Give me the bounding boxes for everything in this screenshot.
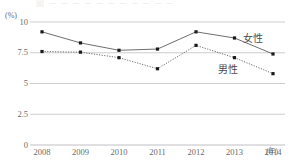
- series-label-male: 男性: [218, 64, 238, 75]
- data-point-marker: [40, 50, 43, 53]
- x-axis-tick-label: 2012: [176, 147, 216, 157]
- y-axis-tick-label: 10: [4, 18, 28, 27]
- y-axis-tick: 5: [4, 79, 28, 88]
- data-point-marker: [233, 56, 236, 59]
- y-axis-tick-label: 5: [4, 79, 28, 88]
- data-point-marker: [233, 36, 236, 39]
- data-point-marker: [79, 41, 82, 44]
- data-point-marker: [79, 51, 82, 54]
- data-point-marker: [271, 72, 274, 75]
- y-axis-tick: 10: [4, 18, 28, 27]
- line-chart-plot: [0, 0, 291, 164]
- x-axis-tick-label: 2011: [138, 147, 178, 157]
- y-axis-tick-label: 2.5: [4, 110, 28, 119]
- x-axis-tick-label: 2008: [22, 147, 62, 157]
- data-point-marker: [194, 30, 197, 33]
- x-axis-tick-label: 2013: [215, 147, 255, 157]
- chart-container: 図 ─ ─ ─ ─ ─ ─ ─ ─ ─ ─ ─ (%) 107.552.50 2…: [0, 0, 291, 164]
- data-point-marker: [194, 44, 197, 47]
- y-axis-tick: 7.5: [4, 48, 28, 57]
- series-label-female: 女性: [243, 33, 263, 44]
- data-point-marker: [117, 49, 120, 52]
- data-point-marker: [156, 67, 159, 70]
- y-axis-tick: 2.5: [4, 110, 28, 119]
- y-axis-tick-label: 7.5: [4, 48, 28, 57]
- data-point-marker: [271, 52, 274, 55]
- data-point-marker: [40, 30, 43, 33]
- x-axis-tick-label: 2010: [99, 147, 139, 157]
- x-axis-tick-label: 2009: [61, 147, 101, 157]
- data-point-marker: [156, 47, 159, 50]
- x-axis-unit-label: (年): [266, 147, 278, 157]
- data-point-marker: [117, 56, 120, 59]
